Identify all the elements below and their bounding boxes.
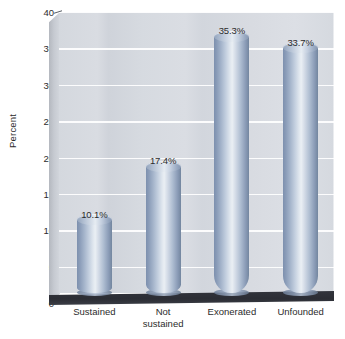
bar-body bbox=[146, 166, 181, 293]
x-axis-category-label: Notsustained bbox=[143, 306, 184, 329]
x-axis-category-label-line: sustained bbox=[143, 318, 184, 330]
x-axis-labels: SustainedNotsustainedExoneratedUnfounded bbox=[49, 306, 334, 339]
bar bbox=[77, 220, 112, 293]
x-axis-category-label-line: Unfounded bbox=[277, 306, 323, 318]
bar-body bbox=[77, 220, 112, 293]
x-axis-category-label-line: Not bbox=[143, 306, 184, 318]
bar bbox=[214, 36, 249, 293]
bar-body bbox=[283, 48, 318, 293]
x-axis-category-label-line: Sustained bbox=[73, 306, 115, 318]
bar-value-label: 10.1% bbox=[81, 209, 107, 220]
bar-value-label: 35.3% bbox=[219, 25, 245, 36]
bar-value-label: 17.4% bbox=[150, 155, 176, 166]
bar-chart: Percent 0510152025303540 SustainedNotsus… bbox=[0, 0, 345, 339]
x-axis-category-label-line: Exonerated bbox=[208, 306, 257, 318]
bar-value-label: 33.7% bbox=[287, 37, 313, 48]
x-axis-category-label: Unfounded bbox=[277, 306, 323, 318]
x-axis-category-label: Sustained bbox=[73, 306, 115, 318]
bar bbox=[146, 166, 181, 293]
x-axis-category-label: Exonerated bbox=[208, 306, 257, 318]
bars-layer bbox=[49, 12, 334, 304]
bar-body bbox=[214, 36, 249, 293]
bar bbox=[283, 48, 318, 293]
